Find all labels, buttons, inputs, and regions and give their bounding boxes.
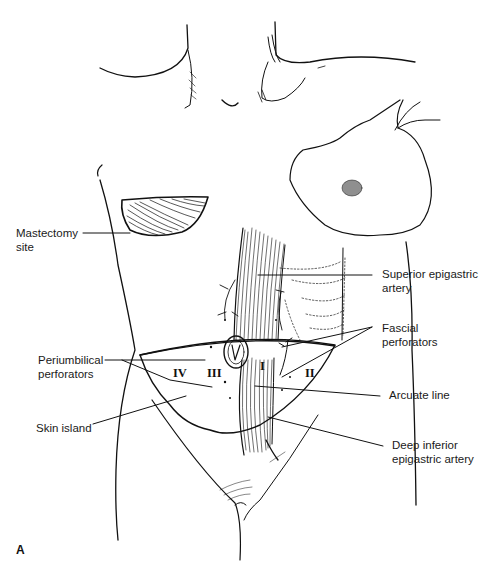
label-deep-inferior-epigastric-artery: Deep inferior epigastric artery: [392, 439, 474, 466]
label-superior-epigastric-artery: Superior epigastric artery: [382, 268, 478, 295]
label-periumbilical-perforators: Periumbilical perforators: [38, 354, 103, 381]
panel-label: A: [16, 543, 25, 557]
label-fascial-perforators: Fascial perforators: [382, 322, 438, 349]
zone-label-ii: II: [305, 366, 315, 381]
zone-label-iii: III: [207, 366, 222, 381]
zone-label-i: I: [260, 359, 265, 374]
label-arcuate-line: Arcuate line: [389, 389, 450, 403]
tram-flap-diagram: Mastectomy site Superior epigastric arte…: [0, 0, 490, 572]
label-mastectomy-site: Mastectomy site: [16, 227, 78, 254]
zone-label-iv: IV: [173, 366, 187, 381]
label-skin-island: Skin island: [36, 422, 92, 436]
